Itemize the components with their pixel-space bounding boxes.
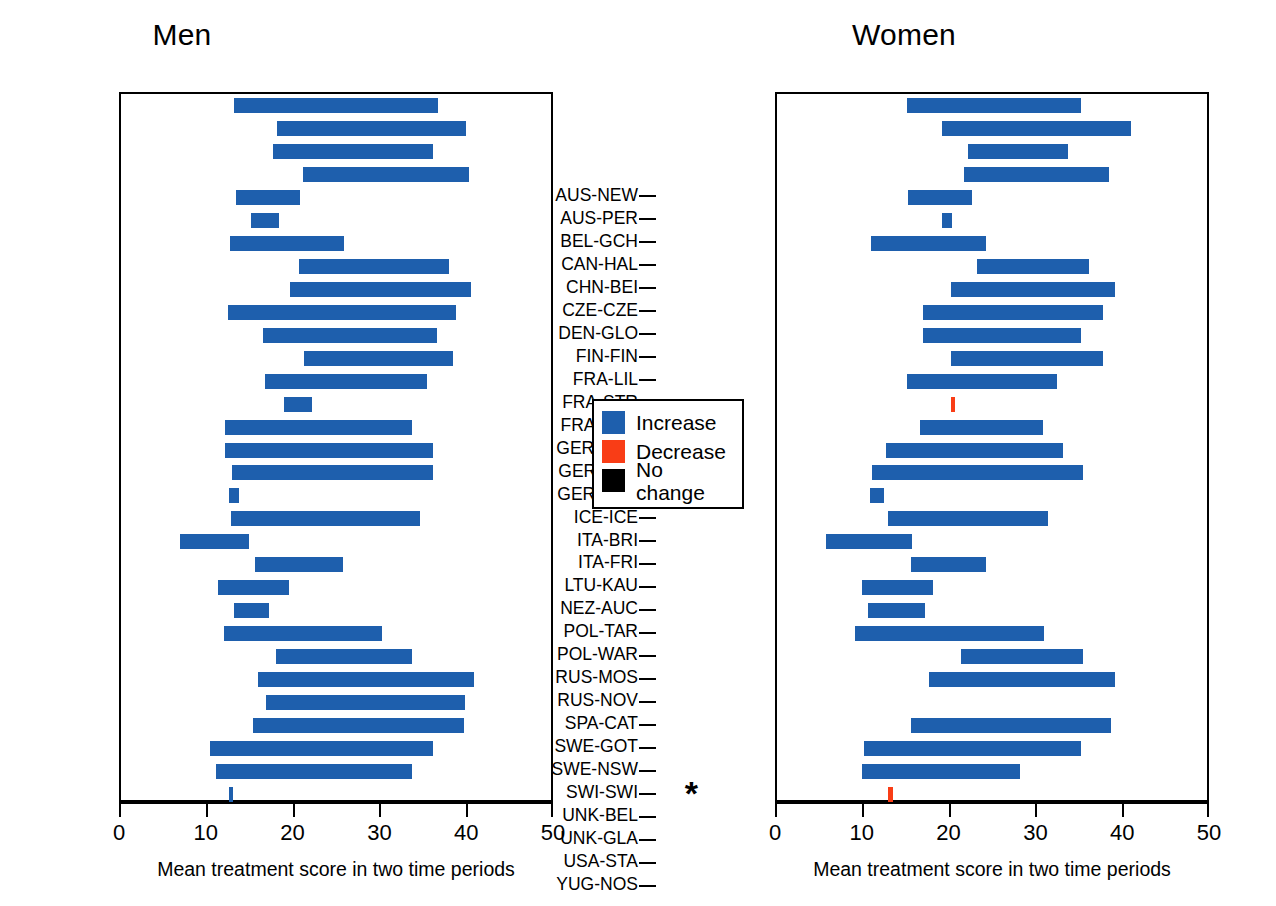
bar-row [121, 760, 551, 783]
y-tick-women-bel-gch [639, 241, 656, 243]
y-tick-women-rus-mos [639, 678, 656, 680]
range-bar [273, 144, 434, 159]
bar-row [121, 737, 551, 760]
bar-row [777, 760, 1207, 783]
y-tick-women-den-glo [639, 333, 656, 335]
bar-row [121, 461, 551, 484]
range-bar [228, 305, 456, 320]
x-tick-label-0: 0 [769, 820, 781, 846]
asterisk-marker-women: * [685, 782, 698, 805]
range-bar [218, 580, 289, 595]
bar-row [777, 668, 1207, 691]
bar-row [777, 783, 1207, 806]
x-tick-label-50: 50 [1197, 820, 1221, 846]
range-bar [230, 236, 345, 251]
y-tick-women-fin-fin [639, 356, 656, 358]
bar-row [121, 576, 551, 599]
bar-row [121, 393, 551, 416]
range-bar [888, 787, 893, 802]
bar-row [777, 416, 1207, 439]
x-tick-label-40: 40 [454, 820, 478, 846]
range-bar [234, 98, 438, 113]
range-bar [908, 190, 972, 205]
x-tick-0 [119, 804, 121, 817]
y-label-women-cze-cze: CZE-CZE [562, 299, 638, 322]
bar-row [121, 484, 551, 507]
y-tick-women-swe-nsw [639, 770, 656, 772]
range-bar [968, 144, 1068, 159]
range-bar [871, 236, 986, 251]
y-tick-women-ita-bri [639, 540, 656, 542]
y-tick-women-spa-cat [639, 724, 656, 726]
x-axis-title-women: Mean treatment score in two time periods [677, 858, 1276, 881]
range-bar [864, 741, 1081, 756]
bar-row [777, 439, 1207, 462]
bar-row [777, 645, 1207, 668]
bar-row [777, 714, 1207, 737]
plot-area-women [775, 92, 1209, 804]
range-bar [303, 167, 469, 182]
y-label-women-chn-bei: CHN-BEI [566, 276, 638, 299]
range-bar [888, 511, 1048, 526]
bar-row [121, 439, 551, 462]
range-bar [304, 351, 452, 366]
range-bar [929, 672, 1115, 687]
range-bar [225, 443, 432, 458]
y-label-women-ita-bri: ITA-BRI [577, 529, 638, 552]
plot-area-men [119, 92, 553, 804]
y-tick-women-yug-nos [639, 885, 656, 887]
x-tick-label-20: 20 [280, 820, 304, 846]
x-tick-label-10: 10 [850, 820, 874, 846]
range-bar [229, 787, 234, 802]
range-bar [277, 121, 466, 136]
x-tick-label-0: 0 [113, 820, 125, 846]
x-tick-40 [466, 804, 468, 817]
range-bar [977, 259, 1090, 274]
y-label-women-den-glo: DEN-GLO [558, 322, 638, 345]
y-tick-women-aus-new [639, 195, 656, 197]
bar-row [777, 507, 1207, 530]
range-bar [180, 534, 249, 549]
bar-row [777, 278, 1207, 301]
range-bar [210, 741, 434, 756]
bar-row [777, 186, 1207, 209]
y-tick-women-cze-cze [639, 310, 656, 312]
range-bar [263, 328, 437, 343]
legend-swatch-nochange [602, 469, 625, 492]
bar-row [121, 163, 551, 186]
bar-row [121, 370, 551, 393]
bar-row [121, 140, 551, 163]
range-bar [951, 282, 1115, 297]
bar-row [777, 140, 1207, 163]
y-label-women-swe-got: SWE-GOT [554, 735, 638, 758]
range-bar [276, 649, 411, 664]
range-bar [872, 465, 1082, 480]
bar-row [121, 553, 551, 576]
y-label-women-spa-cat: SPA-CAT [565, 712, 638, 735]
bar-row [121, 94, 551, 117]
range-bar [907, 98, 1081, 113]
y-label-women-unk-bel: UNK-BEL [562, 804, 638, 827]
bar-row [777, 209, 1207, 232]
y-label-women-rus-nov: RUS-NOV [557, 689, 638, 712]
range-bar [284, 397, 312, 412]
range-bar [266, 695, 465, 710]
x-tick-label-30: 30 [1023, 820, 1047, 846]
bar-row [777, 255, 1207, 278]
bar-row [121, 301, 551, 324]
bar-row [777, 576, 1207, 599]
y-tick-women-aus-per [639, 218, 656, 220]
bar-row [121, 530, 551, 553]
x-tick-50 [551, 804, 553, 817]
bar-row [777, 117, 1207, 140]
bar-row [121, 117, 551, 140]
bar-row [121, 278, 551, 301]
range-bar [942, 121, 1131, 136]
y-tick-women-ltu-kau [639, 586, 656, 588]
y-label-women-usa-sta: USA-STA [563, 850, 638, 873]
x-tick-10 [862, 804, 864, 817]
range-bar [862, 580, 933, 595]
range-bar [868, 603, 924, 618]
y-label-women-swi-swi: SWI-SWI [566, 781, 638, 804]
range-bar [229, 488, 239, 503]
